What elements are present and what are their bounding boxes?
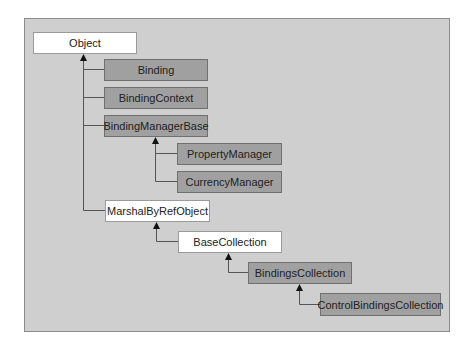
class-node-base-collection: BaseCollection [178, 231, 282, 253]
class-label: Binding [138, 64, 175, 76]
class-node-binding-manager-base: BindingManagerBase [104, 115, 208, 137]
class-label: BaseCollection [193, 236, 266, 248]
class-node-bindings-collection: BindingsCollection [248, 262, 352, 284]
class-node-marshal-by-ref-object: MarshalByRefObject [105, 200, 210, 222]
class-node-object: Object [33, 32, 137, 54]
class-label: CurrencyManager [185, 176, 273, 188]
class-node-currency-manager: CurrencyManager [177, 171, 282, 193]
class-label: BindingContext [119, 92, 194, 104]
class-label: BindingManagerBase [103, 120, 208, 132]
class-label: BindingsCollection [255, 267, 346, 279]
class-label: PropertyManager [187, 148, 272, 160]
class-node-binding-context: BindingContext [104, 87, 208, 109]
class-label: Object [69, 37, 101, 49]
class-node-binding: Binding [104, 59, 208, 81]
class-node-property-manager: PropertyManager [177, 143, 282, 165]
class-label: ControlBindingsCollection [318, 299, 444, 311]
class-label: MarshalByRefObject [107, 205, 208, 217]
class-node-control-bindings-collection: ControlBindingsCollection [320, 293, 441, 316]
